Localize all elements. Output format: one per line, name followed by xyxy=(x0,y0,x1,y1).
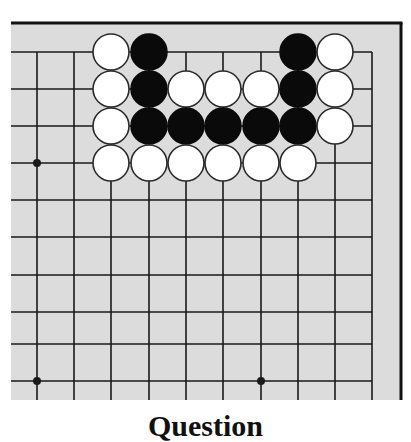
black-stone[interactable] xyxy=(243,108,279,144)
white-stone[interactable] xyxy=(93,71,129,107)
white-stone[interactable] xyxy=(317,71,353,107)
white-stone[interactable] xyxy=(131,145,167,181)
black-stone[interactable] xyxy=(280,71,316,107)
diagram-caption: Question xyxy=(0,411,411,441)
white-stone[interactable] xyxy=(168,145,204,181)
white-stone[interactable] xyxy=(317,108,353,144)
white-stone[interactable] xyxy=(93,108,129,144)
black-stone[interactable] xyxy=(131,71,167,107)
star-point-icon xyxy=(33,159,41,167)
white-stone[interactable] xyxy=(205,145,241,181)
black-stone[interactable] xyxy=(280,108,316,144)
go-board xyxy=(0,0,411,405)
white-stone[interactable] xyxy=(93,34,129,70)
go-board-diagram xyxy=(0,0,411,405)
white-stone[interactable] xyxy=(168,71,204,107)
black-stone[interactable] xyxy=(280,34,316,70)
black-stone[interactable] xyxy=(131,108,167,144)
white-stone[interactable] xyxy=(93,145,129,181)
white-stone[interactable] xyxy=(243,145,279,181)
white-stone[interactable] xyxy=(205,71,241,107)
black-stone[interactable] xyxy=(131,34,167,70)
black-stone[interactable] xyxy=(168,108,204,144)
star-point-icon xyxy=(33,377,41,385)
white-stone[interactable] xyxy=(243,71,279,107)
white-stone[interactable] xyxy=(280,145,316,181)
white-stone[interactable] xyxy=(317,34,353,70)
black-stone[interactable] xyxy=(205,108,241,144)
star-point-icon xyxy=(257,377,265,385)
